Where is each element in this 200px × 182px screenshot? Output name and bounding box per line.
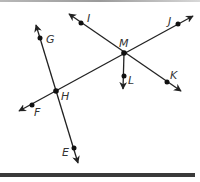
point-L (122, 74, 127, 79)
label-G: G (46, 33, 55, 46)
bottom-rule (0, 173, 195, 177)
point-K (165, 80, 170, 85)
point-J (176, 22, 181, 27)
label-J: J (166, 15, 171, 28)
line-FJ (19, 16, 193, 111)
label-I: I (87, 12, 90, 25)
label-M: M (119, 37, 129, 50)
label-E: E (62, 146, 69, 159)
point-M (121, 50, 127, 56)
label-L: L (128, 74, 134, 87)
label-K: K (170, 69, 178, 82)
label-F: F (34, 106, 41, 119)
point-I (79, 21, 84, 26)
ray-ML (123, 53, 124, 89)
point-H (53, 88, 59, 94)
point-E (72, 146, 77, 151)
line-GE (36, 25, 78, 163)
labels-layer: GIMJLKHFE (34, 12, 178, 159)
geometry-diagram: GIMJLKHFE (0, 0, 200, 182)
point-G (38, 36, 43, 41)
label-H: H (61, 90, 69, 103)
